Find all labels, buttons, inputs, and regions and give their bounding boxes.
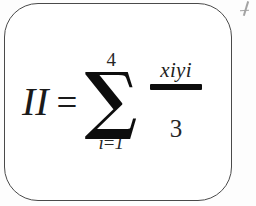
fraction-bar xyxy=(150,84,202,90)
fraction-denominator: 3 xyxy=(170,116,183,141)
equals-sign: = xyxy=(55,84,82,121)
stray-mark-stroke-diagonal xyxy=(243,1,249,16)
summation-sigma-icon: ∑ xyxy=(85,70,138,129)
math-formula: II = 4 ∑ i=1 xiyi 3 xyxy=(0,0,228,198)
formula-left-hand-side: II xyxy=(22,82,55,122)
stray-mark-stroke-horizontal xyxy=(240,10,249,12)
stray-ink-mark-icon xyxy=(238,1,252,17)
formula-expression: II = 4 ∑ i=1 xiyi 3 xyxy=(22,50,202,151)
fraction-numerator: xiyi xyxy=(160,60,192,81)
screenshot-root: II = 4 ∑ i=1 xiyi 3 xyxy=(0,0,256,206)
summation-block: 4 ∑ i=1 xyxy=(83,50,139,151)
fraction-block: xiyi 3 xyxy=(150,60,202,141)
